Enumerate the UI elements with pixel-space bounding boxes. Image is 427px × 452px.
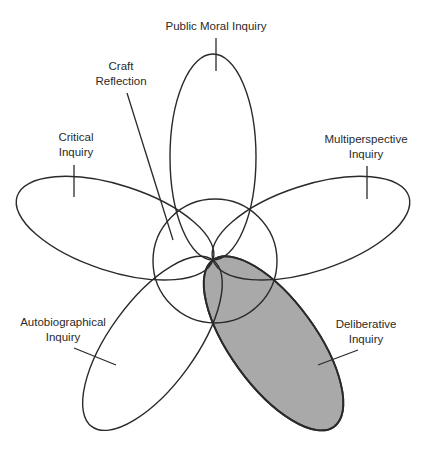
label-multi-line1: Multiperspective — [324, 132, 407, 147]
label-auto-line1: Autobiographical — [20, 315, 106, 330]
petal-critical — [4, 155, 226, 300]
label-craft-line1: Craft — [95, 59, 146, 74]
label-multiperspective-inquiry: Multiperspective Inquiry — [324, 132, 407, 162]
label-public-moral-inquiry: Public Moral Inquiry — [166, 19, 267, 34]
label-delib-line2: Inquiry — [336, 332, 397, 347]
label-deliberative-inquiry: Deliberative Inquiry — [336, 317, 397, 347]
label-delib-line1: Deliberative — [336, 317, 397, 332]
label-autobiographical-inquiry: Autobiographical Inquiry — [20, 315, 106, 345]
label-critical-line2: Inquiry — [58, 145, 93, 160]
label-critical-line1: Critical — [58, 130, 93, 145]
leader-craft-reflection — [127, 93, 173, 240]
petal-public-moral — [170, 54, 256, 260]
label-public-moral-text: Public Moral Inquiry — [166, 20, 267, 32]
inquiry-petal-diagram — [0, 0, 427, 452]
leader-autobiographical — [74, 348, 116, 365]
label-critical-inquiry: Critical Inquiry — [58, 130, 93, 160]
label-auto-line2: Inquiry — [20, 330, 106, 345]
label-craft-line2: Reflection — [95, 74, 146, 89]
label-craft-reflection: Craft Reflection — [95, 59, 146, 89]
label-multi-line2: Inquiry — [324, 147, 407, 162]
